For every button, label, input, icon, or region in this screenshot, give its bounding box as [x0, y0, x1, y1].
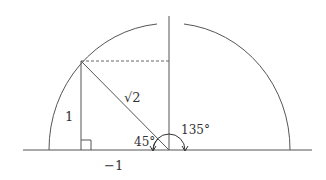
- semicircle-arc-left: [49, 24, 157, 150]
- label-x-coordinate: −1: [104, 159, 123, 172]
- label-opposite-side: 1: [65, 110, 73, 123]
- label-hypotenuse: √2: [124, 91, 141, 104]
- label-angle-45: 45°: [134, 136, 155, 148]
- label-angle-135: 135°: [181, 124, 210, 136]
- triangle-hypotenuse: [81, 61, 169, 150]
- right-angle-marker: [81, 140, 91, 150]
- diagram-canvas: [0, 0, 326, 180]
